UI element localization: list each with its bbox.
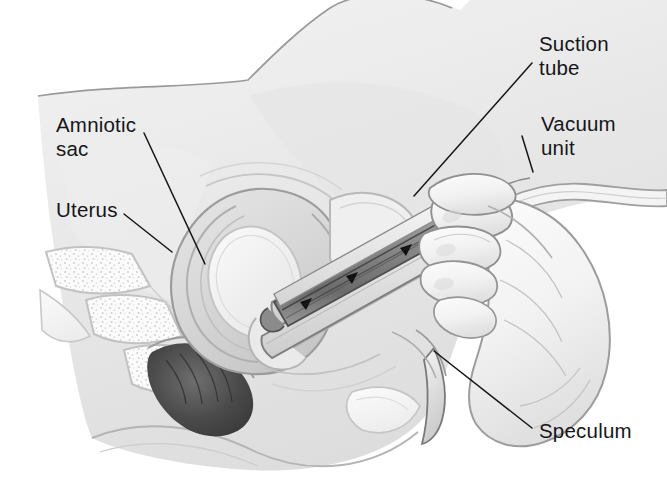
label-speculum: Speculum — [539, 419, 632, 443]
label-amniotic-sac: Amniotic sac — [56, 113, 136, 161]
label-uterus: Uterus — [56, 198, 118, 222]
medical-illustration-figure: Amniotic sac Uterus Suction tube Vacuum … — [0, 0, 667, 498]
label-suction-tube: Suction tube — [539, 32, 609, 80]
label-vacuum-unit: Vacuum unit — [541, 112, 616, 160]
